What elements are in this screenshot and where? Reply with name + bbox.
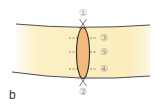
lesion-ellipse [77,28,90,79]
marker-3: ③ [100,33,108,43]
marker-5: ⑤ [100,47,108,57]
marker-4: ④ [100,64,108,74]
panel-label: b [9,88,16,102]
marker-2: ② [79,87,87,97]
diagram-canvas: ① ② ③ ⑤ ④ b [0,0,156,107]
marker-1: ① [79,8,87,18]
